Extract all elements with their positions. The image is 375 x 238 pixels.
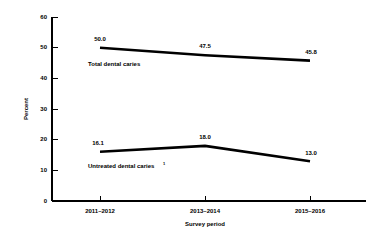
series-line-total-dental-caries: [100, 48, 310, 61]
y-axis-title: Percent: [23, 98, 29, 120]
data-label-untreated-2: 18.0: [199, 134, 211, 140]
y-tick-label-0: 0: [44, 198, 48, 204]
data-label-total-1: 50.0: [94, 36, 106, 42]
series-annotation-total-dental-caries: Total dental caries: [88, 61, 141, 67]
x-tick-label-3: 2015–2016: [295, 208, 326, 214]
y-tick-label-10: 10: [40, 167, 47, 173]
y-tick-label-30: 30: [40, 106, 47, 112]
y-tick-label-50: 50: [40, 44, 47, 50]
line-chart: 60 50 40 30 20 10 0 Percent 2011–2012 20…: [0, 0, 375, 238]
data-label-total-2: 47.5: [199, 43, 211, 49]
series-annotation-untreated-dental-caries: Untreated dental caries: [88, 163, 155, 169]
y-tick-label-20: 20: [40, 136, 47, 142]
series-annotation-untreated-dental-caries-group: Untreated dental caries 1: [88, 161, 166, 169]
data-label-untreated-3: 13.0: [305, 150, 317, 156]
chart-canvas: 60 50 40 30 20 10 0 Percent 2011–2012 20…: [0, 0, 375, 238]
x-tick-label-2: 2013–2014: [190, 208, 221, 214]
data-label-total-3: 45.8: [305, 49, 317, 55]
series-line-untreated-dental-caries: [100, 146, 310, 161]
data-label-untreated-1: 16.1: [92, 140, 104, 146]
y-tick-label-60: 60: [40, 14, 47, 20]
footnote-marker-icon: 1: [163, 161, 166, 166]
x-tick-label-1: 2011–2012: [85, 208, 115, 214]
x-axis-title: Survey period: [185, 221, 225, 227]
y-tick-label-40: 40: [40, 75, 47, 81]
